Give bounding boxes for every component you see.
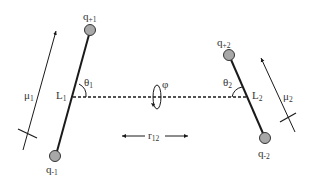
label-r12: r12 [148, 129, 159, 143]
charge-q-plus-2 [224, 50, 235, 61]
label-phi: φ [162, 78, 168, 90]
label-q-plus-2: q+2 [217, 36, 231, 50]
label-theta-1: θ1 [84, 76, 93, 90]
angle-arc-theta-2 [232, 87, 242, 97]
label-q-plus-1: q+1 [83, 10, 97, 24]
label-theta-2: θ2 [223, 76, 232, 90]
label-q-minus-2: q-2 [258, 147, 270, 161]
label-L2: L2 [252, 89, 263, 103]
label-mu-1: μ1 [24, 89, 34, 103]
charge-q-minus-1 [50, 151, 61, 162]
label-q-minus-1: q-1 [46, 163, 58, 177]
dipole-mu-1-tick [18, 129, 37, 138]
charge-q-minus-2 [260, 133, 271, 144]
dipole-mu-2-tick [280, 113, 296, 122]
diagram-svg: q+1 q-1 L1 θ1 μ1 q+2 q-2 L2 θ2 μ2 φ [0, 0, 311, 178]
label-mu-2: μ2 [283, 90, 293, 104]
diagram-canvas: q+1 q-1 L1 θ1 μ1 q+2 q-2 L2 θ2 μ2 φ [0, 0, 311, 178]
label-L1: L1 [56, 89, 67, 103]
charge-q-plus-1 [85, 25, 96, 36]
